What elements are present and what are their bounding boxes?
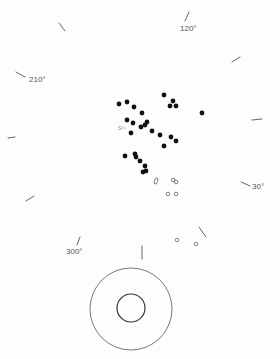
tick-right-line <box>252 119 262 120</box>
filled-dot <box>117 102 122 107</box>
filled-dot <box>162 144 167 149</box>
filled-dot <box>150 129 155 134</box>
filled-dot <box>131 121 136 126</box>
filled-dots <box>117 93 205 175</box>
filled-dot <box>125 118 130 123</box>
angle-label: 120° <box>180 24 197 33</box>
angle-ticks <box>8 12 262 259</box>
filled-dot <box>139 125 144 130</box>
filled-dot <box>171 99 176 104</box>
filled-dot <box>144 169 149 174</box>
filled-dot <box>162 93 167 98</box>
filled-dot <box>174 139 179 144</box>
filled-dot <box>143 164 148 169</box>
open-oval <box>153 177 158 184</box>
diagram-canvas: 120°210°30°300° S <box>0 0 280 359</box>
filled-dot <box>129 131 134 136</box>
open-circle <box>174 180 178 184</box>
tick-120-line <box>185 12 189 21</box>
filled-dot <box>168 104 173 109</box>
filled-dot <box>174 104 179 109</box>
tick-lower-right-line <box>199 227 206 237</box>
angle-label: 30° <box>252 182 264 191</box>
filled-dot <box>140 111 145 116</box>
inner-ring <box>117 294 145 322</box>
filled-dot <box>134 155 139 160</box>
s-marker: S <box>118 125 126 131</box>
filled-dot <box>138 159 143 164</box>
angle-label: 300° <box>66 247 83 256</box>
filled-dot <box>158 133 163 138</box>
open-circle <box>175 238 179 242</box>
tick-upper-left-line <box>59 23 65 31</box>
outer-ring <box>90 268 172 350</box>
angle-labels: 120°210°30°300° <box>29 24 264 256</box>
tick-lower-left-line <box>26 196 34 201</box>
filled-dot <box>200 111 205 116</box>
tick-30-line <box>241 182 250 186</box>
open-circle <box>166 192 170 196</box>
filled-dot <box>132 105 137 110</box>
tick-upper-right-line <box>232 57 240 62</box>
concentric-rings <box>90 268 172 350</box>
filled-dot <box>125 100 130 105</box>
angle-label: 210° <box>29 75 46 84</box>
open-circle <box>194 242 198 246</box>
filled-dot <box>123 154 128 159</box>
tick-210-line <box>16 72 25 77</box>
polar-dot-diagram: 120°210°30°300° S <box>0 0 280 359</box>
filled-dot <box>169 135 174 140</box>
open-markers <box>153 177 197 245</box>
open-circle <box>174 192 178 196</box>
tick-300-line <box>77 237 80 245</box>
tick-left-line <box>8 137 15 138</box>
